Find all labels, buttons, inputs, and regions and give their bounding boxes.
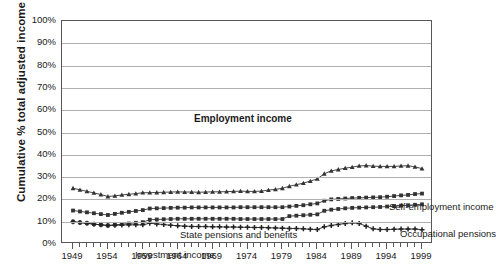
x-tick bbox=[344, 243, 345, 247]
x-tick bbox=[163, 243, 164, 247]
y-tick-label: 30% bbox=[22, 171, 56, 181]
gridline bbox=[62, 177, 431, 178]
gridline bbox=[62, 222, 431, 223]
y-tick-label: 0% bbox=[22, 238, 56, 248]
x-tick bbox=[400, 243, 401, 247]
x-tick bbox=[386, 243, 387, 249]
x-tick bbox=[156, 243, 157, 247]
x-tick bbox=[107, 243, 108, 249]
annotation-self-employment-income: Self-employment income bbox=[389, 201, 494, 212]
x-tick bbox=[247, 243, 248, 249]
x-tick bbox=[233, 243, 234, 247]
x-tick bbox=[149, 243, 150, 247]
x-tick bbox=[323, 243, 324, 247]
x-tick bbox=[267, 243, 268, 247]
x-tick bbox=[177, 243, 178, 249]
y-tick-label: 80% bbox=[22, 60, 56, 70]
y-tick-label: 40% bbox=[22, 149, 56, 159]
x-tick bbox=[142, 243, 143, 249]
annotation-employment-income: Employment income bbox=[194, 113, 292, 124]
annotation-occupational-pensions: Occupational pensions bbox=[400, 228, 496, 239]
x-tick bbox=[421, 243, 422, 249]
y-tick-label: 70% bbox=[22, 82, 56, 92]
x-tick bbox=[121, 243, 122, 247]
gridline bbox=[62, 43, 431, 44]
y-tick-label: 10% bbox=[22, 216, 56, 226]
x-tick bbox=[260, 243, 261, 247]
x-tick bbox=[72, 243, 73, 249]
x-tick bbox=[295, 243, 296, 247]
x-tick bbox=[407, 243, 408, 247]
y-tick-label: 100% bbox=[22, 15, 56, 25]
y-tick-label: 20% bbox=[22, 193, 56, 203]
x-tick bbox=[316, 243, 317, 249]
x-tick bbox=[184, 243, 185, 247]
x-tick bbox=[337, 243, 338, 247]
gridline bbox=[62, 110, 431, 111]
series-self-employment-income bbox=[71, 163, 425, 198]
gridline bbox=[62, 66, 431, 67]
series-state-pensions-and-benefits bbox=[71, 192, 424, 217]
x-tick bbox=[288, 243, 289, 247]
x-tick bbox=[372, 243, 373, 247]
y-tick-label: 90% bbox=[22, 37, 56, 47]
x-tick bbox=[240, 243, 241, 247]
plot-area: Employment income State pensions and ben… bbox=[61, 20, 432, 243]
x-tick bbox=[191, 243, 192, 247]
x-tick bbox=[205, 243, 206, 247]
x-tick bbox=[309, 243, 310, 247]
gridline bbox=[62, 199, 431, 200]
gridline bbox=[62, 88, 431, 89]
gridline bbox=[62, 155, 431, 156]
x-tick bbox=[358, 243, 359, 247]
x-tick bbox=[365, 243, 366, 247]
y-axis-tick-labels: 100%90%80%70%60%50%40%30%20%10%0% bbox=[18, 0, 56, 274]
x-tick bbox=[79, 243, 80, 247]
x-tick-label: 1999 bbox=[401, 250, 441, 261]
x-tick bbox=[379, 243, 380, 247]
x-tick bbox=[93, 243, 94, 247]
x-tick bbox=[114, 243, 115, 247]
x-tick bbox=[135, 243, 136, 247]
annotation-state-pensions: State pensions and benefits bbox=[180, 229, 297, 240]
x-tick bbox=[253, 243, 254, 247]
x-tick bbox=[281, 243, 282, 249]
x-tick bbox=[274, 243, 275, 247]
x-tick bbox=[212, 243, 213, 249]
x-tick bbox=[302, 243, 303, 247]
y-tick-label: 50% bbox=[22, 127, 56, 137]
x-tick bbox=[414, 243, 415, 247]
x-tick bbox=[198, 243, 199, 247]
x-tick bbox=[219, 243, 220, 247]
x-tick bbox=[100, 243, 101, 247]
x-tick bbox=[226, 243, 227, 247]
x-tick bbox=[128, 243, 129, 247]
gridline bbox=[62, 133, 431, 134]
y-tick-label: 60% bbox=[22, 104, 56, 114]
x-tick bbox=[170, 243, 171, 247]
x-tick bbox=[351, 243, 352, 249]
x-tick bbox=[330, 243, 331, 247]
x-tick bbox=[393, 243, 394, 247]
x-tick bbox=[86, 243, 87, 247]
x-axis-tick-labels: 1949195419591964196919741979198419891994… bbox=[0, 250, 434, 266]
